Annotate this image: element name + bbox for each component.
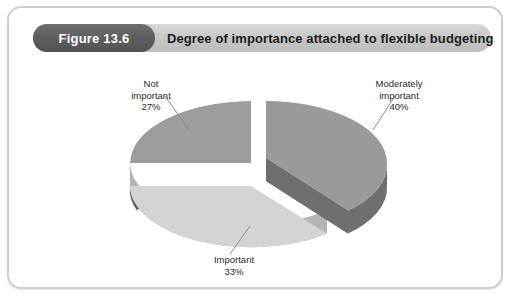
slice-label-not-important-line1: Not bbox=[109, 78, 193, 90]
figure-panel-inner: Figure 13.6 Degree of importance attache… bbox=[13, 12, 497, 283]
slice-label-moderately-important: Moderately important 40% bbox=[353, 78, 445, 113]
slice-label-not-important: Not important 27% bbox=[109, 78, 193, 113]
slice-value-moderately-important: 40% bbox=[353, 101, 445, 113]
slice-value-important: 33% bbox=[189, 266, 279, 278]
figure-header-band: Figure 13.6 Degree of importance attache… bbox=[33, 24, 491, 52]
slice-top-moderately-important bbox=[266, 101, 387, 211]
figure-title: Degree of importance attached to flexibl… bbox=[167, 24, 494, 52]
slice-label-important: Important 33% bbox=[189, 254, 279, 277]
figure-number-badge: Figure 13.6 bbox=[33, 24, 155, 52]
slice-label-moderately-important-line1: Moderately bbox=[353, 78, 445, 90]
pie-chart: Not important 27% Moderately important 4… bbox=[17, 58, 493, 279]
slice-label-not-important-line2: important bbox=[109, 90, 193, 102]
figure-panel: Figure 13.6 Degree of importance attache… bbox=[7, 6, 503, 289]
figure-number-label: Figure 13.6 bbox=[59, 31, 130, 46]
slice-label-important-line1: Important bbox=[189, 254, 279, 266]
slice-label-moderately-important-line2: important bbox=[353, 90, 445, 102]
slice-value-not-important: 27% bbox=[109, 101, 193, 113]
